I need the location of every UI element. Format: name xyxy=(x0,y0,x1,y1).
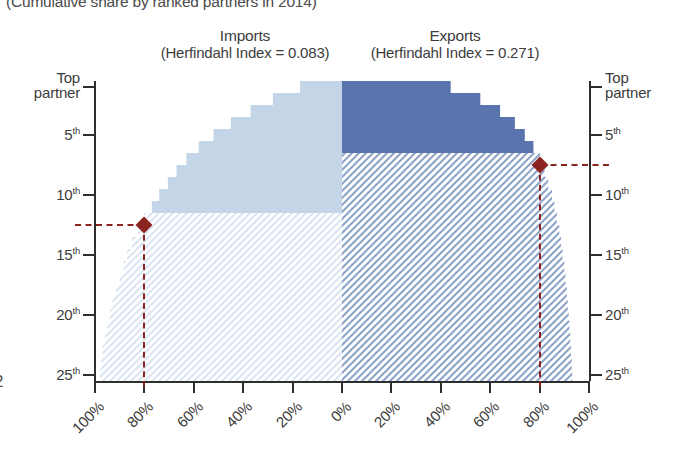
x-tick-60pct-8 xyxy=(489,381,491,393)
y-tick-right-1 xyxy=(591,86,602,88)
y-label-right-1: Toppartner xyxy=(605,70,651,100)
exports-solid-area xyxy=(342,81,540,165)
x-label-0: 100% xyxy=(64,398,107,441)
y-tick-right-5 xyxy=(591,134,602,136)
x-label-7: 40% xyxy=(410,398,453,441)
x-tick-40pct-7 xyxy=(440,381,442,393)
x-label-4: 20% xyxy=(261,398,304,441)
page-number: 2 xyxy=(0,372,3,392)
exports-80pct-marker-guide-vertical xyxy=(539,165,541,387)
imports-solid-area xyxy=(144,81,342,225)
x-tick-60pct-2 xyxy=(193,381,195,393)
y-label-right-25: 25th xyxy=(605,366,629,382)
x-label-1: 80% xyxy=(113,398,156,441)
imports-80pct-marker-guide-horizontal xyxy=(75,224,144,226)
x-label-3: 40% xyxy=(212,398,255,441)
y-label-left-5: 5th xyxy=(64,126,80,142)
x-tick-100pct-10 xyxy=(588,381,590,393)
imports-80pct-marker-guide-vertical xyxy=(143,225,145,387)
x-tick-20pct-6 xyxy=(390,381,392,393)
y-tick-left-10 xyxy=(83,194,94,196)
y-tick-left-20 xyxy=(83,314,94,316)
x-tick-20pct-4 xyxy=(292,381,294,393)
x-label-10: 100% xyxy=(558,398,601,441)
cumulative-share-plot xyxy=(95,81,589,381)
y-tick-left-5 xyxy=(83,134,94,136)
x-label-6: 20% xyxy=(360,398,403,441)
y-tick-right-10 xyxy=(591,194,602,196)
y-tick-left-25 xyxy=(83,374,94,376)
y-label-left-20: 20th xyxy=(56,306,80,322)
imports-hatched-area xyxy=(100,213,342,381)
x-label-9: 80% xyxy=(508,398,551,441)
exports-title-text: Exports xyxy=(330,28,580,45)
x-tick-100pct-0 xyxy=(94,381,96,393)
exports-herfindahl-label: (Herfindahl Index = 0.271) xyxy=(330,45,580,61)
y-tick-left-1 xyxy=(83,86,94,88)
y-label-right-10: 10th xyxy=(605,186,629,202)
y-tick-right-15 xyxy=(591,254,602,256)
y-tick-left-15 xyxy=(83,254,94,256)
exports-panel-title: Exports (Herfindahl Index = 0.271) xyxy=(330,28,580,61)
chart-canvas: (Cumulative share by ranked partners in … xyxy=(0,0,685,450)
x-label-8: 60% xyxy=(459,398,502,441)
exports-80pct-marker-guide-horizontal xyxy=(540,164,609,166)
chart-subtitle: (Cumulative share by ranked partners in … xyxy=(6,0,436,11)
y-axis-left xyxy=(94,81,96,381)
y-label-right-20: 20th xyxy=(605,306,629,322)
y-label-left-25: 25th xyxy=(56,366,80,382)
x-tick-0pct-5 xyxy=(341,381,343,393)
y-label-left-15: 15th xyxy=(56,246,80,262)
plot-area xyxy=(95,81,589,381)
x-tick-40pct-3 xyxy=(242,381,244,393)
y-label-left-1: Toppartner xyxy=(34,70,80,100)
y-axis-right xyxy=(589,81,591,381)
y-label-right-5: 5th xyxy=(605,126,621,142)
y-label-left-10: 10th xyxy=(56,186,80,202)
y-tick-right-25 xyxy=(591,374,602,376)
x-label-5: 0% xyxy=(311,398,354,441)
y-tick-right-20 xyxy=(591,314,602,316)
y-label-right-15: 15th xyxy=(605,246,629,262)
x-label-2: 60% xyxy=(163,398,206,441)
